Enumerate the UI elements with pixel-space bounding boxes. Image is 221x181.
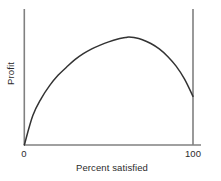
x-tick-label-100: 100 bbox=[178, 148, 208, 159]
profit-curve bbox=[24, 37, 193, 145]
profit-vs-satisfaction-chart: Profit Percent satisfied 0 100 bbox=[0, 0, 221, 181]
y-axis-title: Profit bbox=[5, 51, 16, 97]
x-tick-label-0: 0 bbox=[16, 148, 32, 159]
x-axis-title: Percent satisfied bbox=[24, 162, 200, 173]
